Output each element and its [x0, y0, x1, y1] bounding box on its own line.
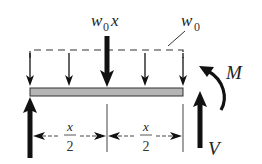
svg-text:2: 2 — [67, 139, 74, 154]
load-arrow-icon — [65, 53, 73, 86]
svg-text:0: 0 — [103, 20, 109, 34]
resultant-load-label: w 0 x — [91, 11, 119, 34]
left-reaction-arrow-icon — [23, 97, 37, 158]
svg-text:2: 2 — [143, 139, 150, 154]
svg-text:x: x — [110, 11, 119, 30]
diagram-svg: x 2 x 2 w 0 x w 0 M V — [0, 0, 262, 164]
svg-text:x: x — [66, 119, 73, 134]
svg-text:x: x — [142, 119, 149, 134]
svg-text:w: w — [91, 11, 103, 30]
svg-text:0: 0 — [194, 20, 200, 34]
w0-leader-line — [168, 31, 185, 46]
shear-arrow-icon — [193, 91, 207, 148]
half-length-label-left: x 2 — [64, 119, 76, 154]
half-length-label-right: x 2 — [140, 119, 152, 154]
beam-fbd-diagram: x 2 x 2 w 0 x w 0 M V — [0, 0, 262, 164]
load-arrow-icon — [26, 53, 34, 86]
resultant-load-arrow-icon — [100, 36, 114, 87]
shear-label: V — [208, 138, 222, 159]
beam — [30, 88, 183, 96]
svg-text:w: w — [181, 11, 193, 30]
distributed-load-label: w 0 — [181, 11, 200, 34]
load-arrow-icon — [179, 53, 187, 86]
load-arrow-icon — [141, 53, 149, 86]
moment-label: M — [225, 62, 243, 83]
